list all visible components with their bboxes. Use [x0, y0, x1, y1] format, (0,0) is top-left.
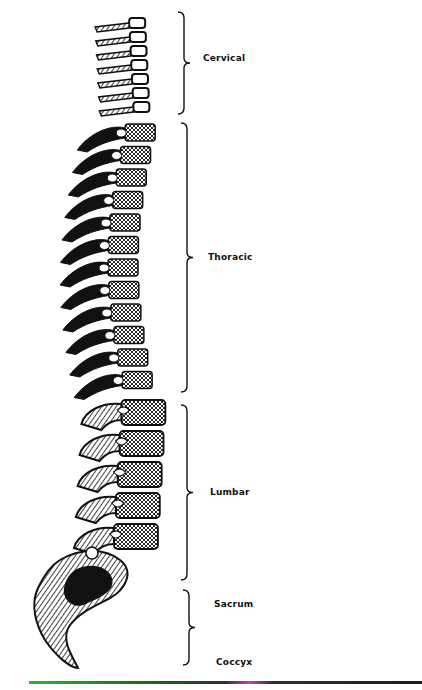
- thoracic-facet: [99, 264, 109, 272]
- cervical-process: [95, 23, 129, 32]
- lumbar-vertebra: [118, 462, 162, 487]
- thoracic-vertebra: [122, 372, 152, 389]
- brace-cervical: [178, 12, 190, 114]
- thoracic-vertebra: [125, 124, 155, 141]
- cervical-process: [99, 93, 133, 102]
- spine-diagram: Cervical Thoracic Lumbar Sacrum Coccyx: [0, 0, 422, 690]
- cervical-vertebra: [130, 32, 146, 42]
- lumbar-process: [78, 466, 118, 492]
- cervical-process: [97, 65, 131, 74]
- lumbar-process: [81, 404, 121, 430]
- lumbar-vertebra: [114, 524, 158, 549]
- label-thoracic: Thoracic: [208, 252, 253, 262]
- thoracic-vertebra: [111, 304, 141, 321]
- thoracic-vertebra: [114, 327, 144, 344]
- sacrum-foramen: [86, 547, 98, 559]
- cervical-vertebra: [133, 88, 149, 98]
- thoracic-facet: [107, 174, 117, 182]
- cervical-vertebra: [129, 18, 145, 28]
- thoracic-vertebra: [113, 192, 143, 209]
- lumbar-process: [76, 497, 116, 523]
- cervical-vertebra: [131, 46, 147, 56]
- brace-sacrum-coccyx: [183, 590, 195, 665]
- thoracic-facet: [116, 129, 126, 137]
- brace-thoracic: [181, 123, 193, 392]
- thoracic-facet: [109, 354, 119, 362]
- cervical-vertebra: [133, 102, 149, 112]
- thoracic-facet: [101, 219, 111, 227]
- cervical-vertebra: [131, 60, 147, 70]
- label-lumbar: Lumbar: [210, 487, 250, 497]
- cervical-vertebra: [132, 74, 148, 84]
- brace-lumbar: [181, 405, 193, 580]
- bottom-rule: [29, 681, 422, 684]
- lumbar-process: [80, 435, 120, 461]
- label-cervical: Cervical: [203, 53, 245, 63]
- label-sacrum: Sacrum: [214, 599, 253, 609]
- cervical-process: [99, 107, 133, 116]
- thoracic-vertebra: [108, 237, 138, 254]
- thoracic-facet: [104, 197, 114, 205]
- thoracic-vertebra: [110, 214, 140, 231]
- thoracic-vertebra: [121, 147, 151, 164]
- thoracic-facet: [102, 309, 112, 317]
- lumbar-vertebra: [116, 493, 160, 518]
- sacrum-coccyx-illustration: [34, 547, 127, 668]
- lumbar-vertebra: [121, 400, 165, 425]
- cervical-process: [97, 51, 131, 60]
- cervical-process: [98, 79, 132, 88]
- region-braces: [178, 12, 195, 665]
- vertebrae-group: [60, 18, 165, 554]
- label-coccyx: Coccyx: [216, 657, 252, 667]
- thoracic-facet: [113, 377, 123, 385]
- thoracic-vertebra: [108, 259, 138, 276]
- thoracic-vertebra: [116, 169, 146, 186]
- thoracic-vertebra: [118, 349, 148, 366]
- thoracic-facet: [112, 152, 122, 160]
- cervical-process: [96, 37, 130, 46]
- thoracic-facet: [99, 242, 109, 250]
- thoracic-vertebra: [109, 282, 139, 299]
- thoracic-facet: [100, 287, 110, 295]
- thoracic-facet: [105, 332, 115, 340]
- lumbar-vertebra: [120, 431, 164, 456]
- spine-illustration: [0, 0, 422, 690]
